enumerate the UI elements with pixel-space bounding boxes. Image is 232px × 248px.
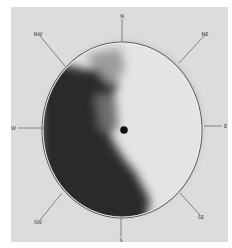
compass-label-se: SE — [198, 214, 204, 220]
compass-label-nw: NW — [34, 31, 43, 37]
compass-label-e: E — [224, 123, 227, 129]
compass-label-ne: NE — [202, 31, 209, 37]
compass-label-sw: SW — [34, 219, 42, 225]
center-dot — [120, 126, 128, 134]
compass-label-w: W — [11, 125, 16, 131]
plate-figure: N NE E SE S SW W NW — [0, 0, 232, 248]
compass-label-s: S — [119, 237, 122, 243]
compass-label-n: N — [120, 13, 124, 19]
